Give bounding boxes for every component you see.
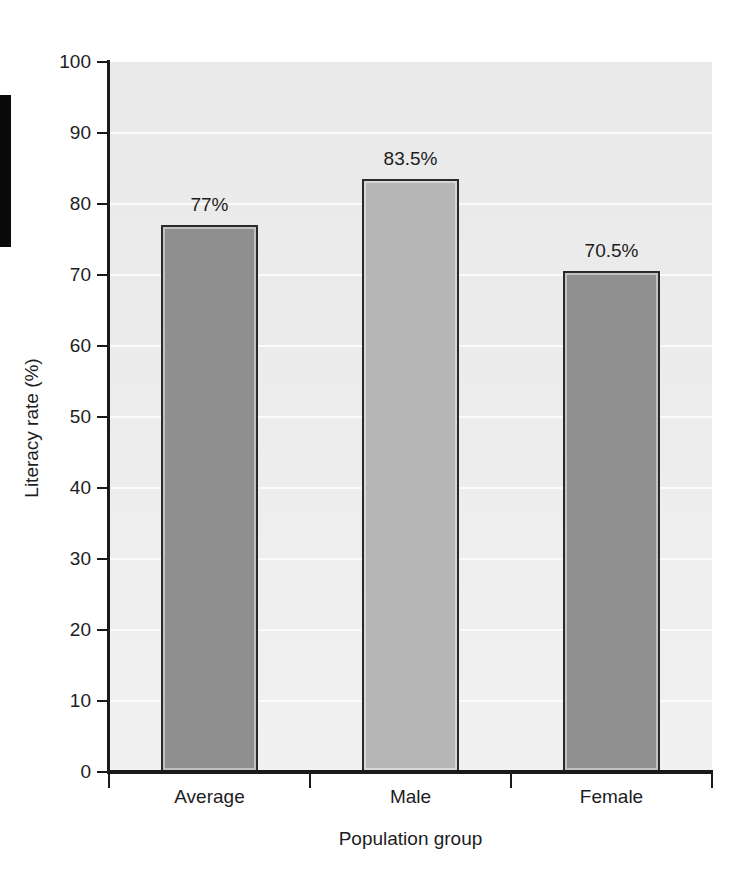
y-axis-tick	[97, 416, 108, 418]
bar	[362, 179, 459, 772]
x-axis-tick	[711, 774, 713, 788]
y-axis-tick-label: 70	[33, 264, 91, 286]
x-axis-category-label: Average	[174, 786, 244, 808]
y-axis-tick	[97, 487, 108, 489]
x-axis-tick	[309, 774, 311, 788]
y-axis-tick-label: 80	[33, 193, 91, 215]
x-axis-category-label: Male	[390, 786, 431, 808]
y-axis-tick	[97, 771, 108, 773]
bar-inner-highlight	[163, 227, 256, 770]
y-axis-tick	[97, 132, 108, 134]
y-axis-tick	[97, 345, 108, 347]
bar-chart-figure: 0102030405060708090100 AverageMaleFemale…	[0, 0, 746, 878]
x-axis-tick	[108, 774, 110, 788]
y-axis-tick	[97, 203, 108, 205]
bar	[563, 271, 660, 772]
y-axis-tick-label: 90	[33, 122, 91, 144]
y-axis-tick	[97, 558, 108, 560]
x-axis-tick	[510, 774, 512, 788]
y-axis-title: Literacy rate (%)	[21, 328, 43, 528]
x-axis-line	[107, 770, 713, 774]
x-axis-title: Population group	[109, 828, 712, 850]
y-axis-tick	[97, 61, 108, 63]
bar-value-label: 70.5%	[585, 240, 639, 262]
y-axis-tick-label: 0	[33, 761, 91, 783]
bar-value-label: 77%	[190, 194, 228, 216]
bar-inner-highlight	[565, 273, 658, 770]
y-axis-tick-label: 20	[33, 619, 91, 641]
gridline	[109, 132, 712, 134]
x-axis-category-label: Female	[580, 786, 643, 808]
bar	[161, 225, 258, 772]
y-axis-tick	[97, 629, 108, 631]
bar-inner-highlight	[364, 181, 457, 770]
y-axis-tick	[97, 274, 108, 276]
bar-value-label: 83.5%	[384, 148, 438, 170]
y-axis-tick-label: 100	[33, 51, 91, 73]
y-axis-tick	[97, 700, 108, 702]
y-axis-tick-label: 30	[33, 548, 91, 570]
y-axis-tick-label: 10	[33, 690, 91, 712]
